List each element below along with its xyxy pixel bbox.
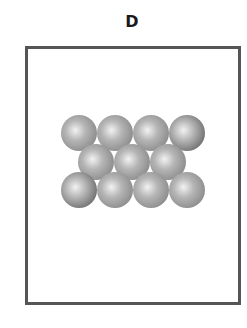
sphere [97,172,133,208]
sphere-layer [61,115,205,208]
sphere [133,172,169,208]
sphere-packing-diagram [0,0,247,328]
sphere [61,172,97,208]
sphere [169,172,205,208]
